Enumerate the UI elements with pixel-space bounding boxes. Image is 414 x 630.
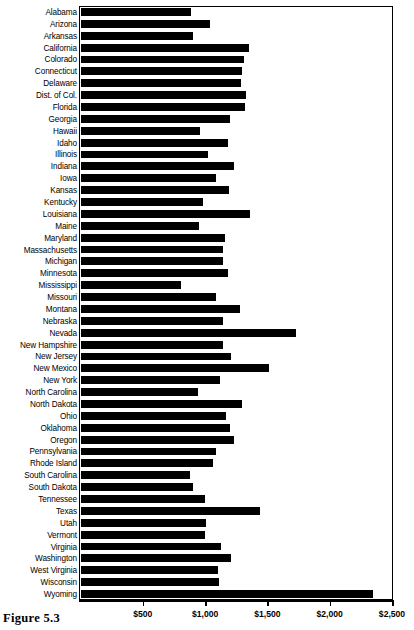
bar-florida — [81, 103, 245, 111]
bar-minnesota — [81, 269, 228, 277]
category-label-minnesota: Minnesota — [40, 269, 77, 278]
bar-arkansas — [81, 32, 193, 40]
bar-california — [81, 44, 249, 52]
category-label-illinois: Illinois — [55, 150, 77, 159]
bar-new-york — [81, 376, 221, 384]
bar-utah — [81, 519, 207, 527]
chart-row: Nebraska — [0, 315, 414, 327]
bar-maryland — [81, 234, 226, 242]
category-label-kentucky: Kentucky — [44, 198, 77, 207]
category-label-maryland: Maryland — [44, 233, 77, 242]
bar-vermont — [81, 531, 206, 539]
category-label-idaho: Idaho — [57, 138, 77, 147]
bar-arizona — [81, 20, 211, 28]
chart-row: Indiana — [0, 160, 414, 172]
chart-row: New Jersey — [0, 351, 414, 363]
category-label-hawaii: Hawaii — [53, 126, 77, 135]
chart-row: Hawaii — [0, 125, 414, 137]
bar-oklahoma — [81, 424, 231, 432]
category-label-colorado: Colorado — [45, 55, 77, 64]
bar-new-jersey — [81, 353, 232, 361]
category-label-kansas: Kansas — [50, 186, 77, 195]
x-axis-line — [79, 600, 393, 602]
category-label-massachusetts: Massachusetts — [24, 245, 77, 254]
bar-delaware — [81, 79, 242, 87]
chart-row: Montana — [0, 303, 414, 315]
bar-louisiana — [81, 210, 250, 218]
bar-ohio — [81, 412, 227, 420]
category-label-nevada: Nevada — [49, 328, 77, 337]
category-label-utah: Utah — [60, 518, 77, 527]
chart-row: Missouri — [0, 291, 414, 303]
bar-south-carolina — [81, 471, 191, 479]
chart-row: Maryland — [0, 232, 414, 244]
category-label-georgia: Georgia — [49, 114, 77, 123]
category-label-indiana: Indiana — [51, 162, 77, 171]
bar-oregon — [81, 436, 234, 444]
category-label-arkansas: Arkansas — [44, 31, 77, 40]
x-tick-label-1500: $1,500 — [254, 609, 280, 619]
chart-row: South Dakota — [0, 481, 414, 493]
category-label-oklahoma: Oklahoma — [40, 423, 77, 432]
x-tick-1500 — [267, 600, 269, 606]
chart-row: Nevada — [0, 327, 414, 339]
chart-row: Pennsylvania — [0, 446, 414, 458]
bar-georgia — [81, 115, 231, 123]
bar-pennsylvania — [81, 448, 217, 456]
category-label-new-york: New York — [43, 376, 77, 385]
x-tick-label-2500: $2,500 — [379, 609, 405, 619]
chart-row: Vermont — [0, 529, 414, 541]
category-label-south-carolina: South Carolina — [24, 471, 77, 480]
category-label-vermont: Vermont — [47, 530, 77, 539]
chart-row: Virginia — [0, 541, 414, 553]
chart-row: Arkansas — [0, 30, 414, 42]
chart-row: North Dakota — [0, 398, 414, 410]
chart-row: Utah — [0, 517, 414, 529]
bar-kentucky — [81, 198, 203, 206]
chart-row: Connecticut — [0, 65, 414, 77]
category-label-tennessee: Tennessee — [38, 495, 77, 504]
bar-washington — [81, 554, 232, 562]
chart-row: Idaho — [0, 137, 414, 149]
bar-connecticut — [81, 67, 243, 75]
bar-kansas — [81, 186, 229, 194]
chart-row: New Mexico — [0, 362, 414, 374]
category-label-oregon: Oregon — [50, 435, 77, 444]
chart-row: Mississippi — [0, 279, 414, 291]
category-label-washington: Washington — [35, 554, 77, 563]
bar-south-dakota — [81, 483, 193, 491]
bar-wisconsin — [81, 578, 219, 586]
chart-row: South Carolina — [0, 469, 414, 481]
chart-row: Dist. of Col. — [0, 89, 414, 101]
chart-row: Oregon — [0, 434, 414, 446]
bar-hawaii — [81, 127, 201, 135]
category-label-pennsylvania: Pennsylvania — [29, 447, 77, 456]
bar-new-mexico — [81, 364, 269, 372]
category-label-wisconsin: Wisconsin — [41, 578, 77, 587]
category-label-mississippi: Mississippi — [39, 281, 77, 290]
bar-montana — [81, 305, 240, 313]
bar-iowa — [81, 174, 217, 182]
chart-row: Massachusetts — [0, 244, 414, 256]
x-tick-label-500: $500 — [133, 609, 152, 619]
chart-row: Rhode Island — [0, 457, 414, 469]
bar-north-carolina — [81, 388, 198, 396]
category-label-california: California — [43, 43, 77, 52]
chart-row: Delaware — [0, 77, 414, 89]
bar-wyoming — [81, 590, 374, 598]
bar-idaho — [81, 139, 228, 147]
chart-row: Iowa — [0, 172, 414, 184]
category-label-michigan: Michigan — [45, 257, 77, 266]
x-tick-label-1000: $1,000 — [192, 609, 218, 619]
bar-indiana — [81, 162, 234, 170]
chart-row: New York — [0, 374, 414, 386]
category-label-missouri: Missouri — [47, 293, 77, 302]
chart-row: Florida — [0, 101, 414, 113]
bar-texas — [81, 507, 260, 515]
bar-virginia — [81, 543, 222, 551]
chart-row: New Hampshire — [0, 339, 414, 351]
chart-row: Oklahoma — [0, 422, 414, 434]
x-tick-label-2000: $2,000 — [317, 609, 343, 619]
category-label-montana: Montana — [46, 304, 77, 313]
category-label-new-jersey: New Jersey — [35, 352, 77, 361]
